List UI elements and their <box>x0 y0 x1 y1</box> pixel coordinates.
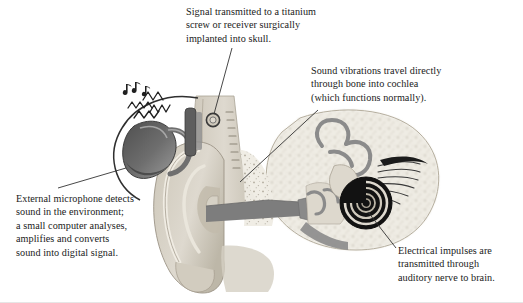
leader-line-microphone <box>58 168 126 188</box>
callout-bone-conduction-text: Sound vibrations travel directly through… <box>311 64 481 104</box>
cochlea <box>340 177 392 229</box>
jaw-shading <box>221 246 274 293</box>
callout-implant-text: Signal transmitted to a titanium screw o… <box>186 5 346 45</box>
callout-auditory-nerve-text: Electrical impulses are transmitted thro… <box>398 244 523 284</box>
callout-microphone-text: External microphone detects sound in the… <box>16 192 181 259</box>
music-note-icon <box>123 82 150 96</box>
diagram-page: Signal transmitted to a titanium screw o… <box>0 0 523 303</box>
